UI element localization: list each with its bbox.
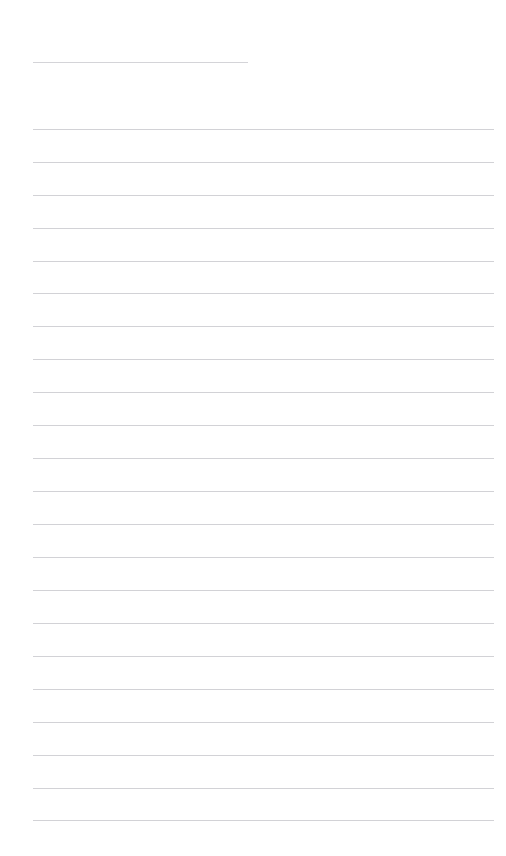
ruled-page [0,0,506,856]
body-rule [33,195,494,196]
body-rule [33,261,494,262]
body-rule [33,788,494,789]
body-rule [33,458,494,459]
body-rule [33,228,494,229]
body-rule [33,425,494,426]
body-rule [33,359,494,360]
body-rule [33,524,494,525]
body-rule [33,656,494,657]
body-rule [33,755,494,756]
body-rule [33,293,494,294]
body-rule [33,722,494,723]
body-rule [33,162,494,163]
header-rule [33,62,248,63]
body-rule [33,820,494,821]
body-rule [33,689,494,690]
body-rule [33,326,494,327]
body-rule [33,623,494,624]
body-rule [33,491,494,492]
body-rule [33,590,494,591]
body-rule [33,392,494,393]
body-rule [33,557,494,558]
body-rule [33,129,494,130]
